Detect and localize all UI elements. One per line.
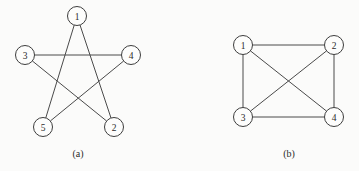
graph-node-label: 5: [41, 123, 46, 133]
panel-a-nodes: 14253: [16, 7, 141, 137]
graph-node-label: 1: [241, 41, 246, 51]
panel-caption: (a): [72, 148, 83, 160]
graph-node-label: 3: [241, 113, 246, 123]
figure-root: 14253 1234 (a)(b): [0, 0, 359, 171]
graph-node[interactable]: 4: [325, 108, 344, 127]
graph-figure-canvas: 14253 1234 (a)(b): [0, 0, 359, 171]
graph-node[interactable]: 4: [122, 46, 141, 65]
graph-node[interactable]: 1: [234, 36, 253, 55]
graph-node-label: 3: [23, 51, 28, 61]
graph-edge: [80, 25, 111, 118]
panel-a-edges: [32, 25, 123, 121]
graph-node[interactable]: 1: [68, 7, 87, 26]
graph-node[interactable]: 5: [34, 118, 53, 137]
graph-node[interactable]: 3: [16, 46, 35, 65]
panel-b-edges: [243, 45, 334, 117]
graph-edge: [50, 61, 123, 121]
panel-captions: (a)(b): [72, 148, 294, 160]
panel-caption: (b): [283, 148, 295, 160]
graph-node-label: 2: [332, 41, 337, 51]
graph-node-label: 2: [112, 123, 117, 133]
graph-edge: [46, 25, 74, 118]
graph-node-label: 4: [129, 51, 134, 61]
graph-node-label: 1: [75, 12, 80, 22]
graph-node-label: 4: [332, 113, 337, 123]
graph-node[interactable]: 2: [105, 118, 124, 137]
graph-node[interactable]: 3: [234, 108, 253, 127]
graph-node[interactable]: 2: [325, 36, 344, 55]
